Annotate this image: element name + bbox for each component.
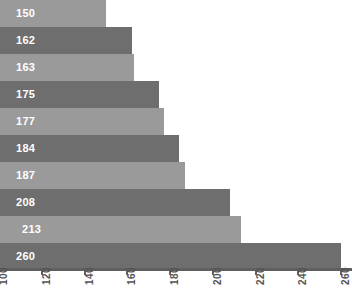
x-axis-tick-label: 200: [213, 267, 223, 285]
bar-chart: 150162163175177184187208213260 100120140…: [0, 0, 352, 305]
bar-value-label: 162: [0, 35, 35, 46]
bar[interactable]: 175: [0, 81, 159, 108]
bar[interactable]: 213: [0, 216, 241, 243]
x-axis-tick-label: 180: [170, 267, 180, 285]
x-axis-tick-label: 240: [298, 267, 308, 285]
plot-area: 150162163175177184187208213260: [0, 0, 352, 270]
bar-value-label: 187: [0, 170, 35, 181]
bar-value-label: 184: [0, 143, 35, 154]
x-axis-tick-label: 160: [127, 267, 137, 285]
x-axis: 100120140160180200220240260: [0, 271, 352, 305]
bar-value-label: 175: [0, 89, 35, 100]
bar[interactable]: 177: [0, 108, 164, 135]
bar-value-label: 150: [0, 8, 35, 19]
x-axis-tick-label: 100: [0, 267, 9, 285]
bar-value-label: 177: [0, 116, 35, 127]
x-axis-tick-label: 260: [341, 267, 351, 285]
bar-value-label: 163: [0, 62, 35, 73]
bar[interactable]: 150: [0, 0, 106, 27]
x-axis-tick-label: 120: [42, 267, 52, 285]
bar[interactable]: 162: [0, 27, 132, 54]
bar-value-label: 208: [0, 197, 35, 208]
bar-value-label: 260: [0, 251, 35, 262]
x-axis-tick-label: 220: [256, 267, 266, 285]
bar[interactable]: 184: [0, 135, 179, 162]
bar[interactable]: 187: [0, 162, 185, 189]
x-axis-tick-label: 140: [85, 267, 95, 285]
bar[interactable]: 208: [0, 189, 230, 216]
bar[interactable]: 163: [0, 54, 134, 81]
bar-value-label: 213: [0, 224, 41, 235]
